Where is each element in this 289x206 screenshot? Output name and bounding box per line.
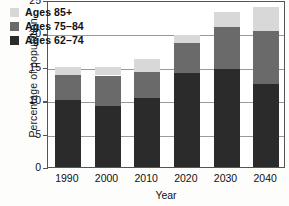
bar-2000 <box>95 0 121 167</box>
bar-segment-1990-75-84 <box>55 75 81 100</box>
chart-legend: Ages 85+Ages 75–84Ages 62–74 <box>9 4 88 48</box>
legend-swatch-icon-2 <box>10 36 19 45</box>
bar-segment-2010-62-74 <box>134 98 160 167</box>
y-tick-label-15: 15 <box>14 62 41 73</box>
legend-swatch-icon-0 <box>10 8 19 17</box>
bar-segment-1990-62-74 <box>55 100 81 167</box>
stacked-bar-chart: Percentage of population 0510152025 1990… <box>0 0 289 206</box>
bar-segment-2030-62-74 <box>214 69 240 167</box>
bar-segment-2040-62-74 <box>253 84 279 168</box>
bar-segment-2000-62-74 <box>95 106 121 167</box>
bar-segment-2020-75-84 <box>174 43 200 73</box>
bar-2010 <box>134 0 160 167</box>
y-tick-label-10: 10 <box>14 95 41 106</box>
x-axis-title: Year <box>47 189 285 201</box>
bar-segment-2000-75-84 <box>95 76 121 106</box>
bar-segment-2040-75-84 <box>253 31 279 83</box>
bar-segment-2030-85plus <box>214 12 240 27</box>
y-tick-label-0: 0 <box>14 162 41 173</box>
legend-swatch-icon-1 <box>10 22 19 31</box>
bar-2040 <box>253 0 279 167</box>
legend-label-1: Ages 75–84 <box>25 20 84 32</box>
y-tick-label-5: 5 <box>14 129 41 140</box>
bar-segment-2000-85plus <box>95 67 121 76</box>
legend-row-0: Ages 85+ <box>10 5 84 19</box>
bar-segment-2020-85plus <box>174 35 200 44</box>
legend-row-2: Ages 62–74 <box>10 33 84 47</box>
bar-segment-2020-62-74 <box>174 73 200 167</box>
bar-segment-2010-75-84 <box>134 72 160 98</box>
y-tick-mark-0 <box>43 168 48 169</box>
bar-2020 <box>174 0 200 167</box>
bar-segment-2040-85plus <box>253 7 279 32</box>
bar-segment-2030-75-84 <box>214 27 240 68</box>
legend-label-2: Ages 62–74 <box>25 34 84 46</box>
bar-segment-2010-85plus <box>134 59 160 72</box>
x-tick-label-2040: 2040 <box>242 172 288 184</box>
legend-label-0: Ages 85+ <box>25 6 72 18</box>
bar-2030 <box>214 0 240 167</box>
legend-row-1: Ages 75–84 <box>10 19 84 33</box>
bar-segment-1990-85plus <box>55 67 81 75</box>
